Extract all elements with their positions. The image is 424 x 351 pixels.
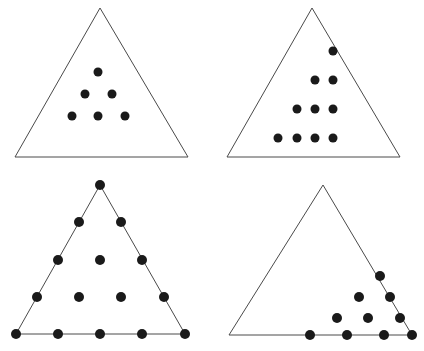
lattice-dot bbox=[53, 255, 63, 265]
panel-top-left bbox=[0, 0, 212, 175]
triangle-outline bbox=[229, 185, 412, 335]
dot-group bbox=[305, 271, 417, 340]
lattice-dot bbox=[332, 313, 342, 323]
lattice-dot bbox=[329, 76, 338, 85]
dot-group bbox=[11, 180, 190, 339]
lattice-dot bbox=[311, 105, 320, 114]
panel-bottom-left bbox=[0, 176, 212, 351]
lattice-dot bbox=[342, 330, 352, 340]
panel-bottom-left-canvas bbox=[0, 176, 212, 351]
lattice-dot bbox=[311, 76, 320, 85]
lattice-dot bbox=[159, 292, 169, 302]
lattice-dot bbox=[354, 292, 364, 302]
panel-top-right-canvas bbox=[212, 0, 424, 175]
lattice-dot bbox=[116, 217, 126, 227]
lattice-dot bbox=[293, 134, 302, 143]
triangle-outline bbox=[15, 8, 188, 157]
lattice-dot bbox=[363, 313, 373, 323]
lattice-dot bbox=[68, 112, 77, 121]
lattice-dot bbox=[137, 255, 147, 265]
lattice-dot bbox=[274, 134, 283, 143]
lattice-dot bbox=[74, 217, 84, 227]
lattice-dot bbox=[81, 90, 90, 99]
lattice-dot bbox=[116, 292, 126, 302]
lattice-dot bbox=[95, 329, 105, 339]
lattice-dot bbox=[53, 329, 63, 339]
lattice-dot bbox=[293, 105, 302, 114]
lattice-dot bbox=[305, 330, 315, 340]
panel-top-left-canvas bbox=[0, 0, 212, 175]
lattice-dot bbox=[32, 292, 42, 302]
lattice-dot bbox=[329, 105, 338, 114]
lattice-dot bbox=[329, 134, 338, 143]
panel-top-right bbox=[212, 0, 424, 175]
lattice-dot bbox=[11, 329, 21, 339]
lattice-dot bbox=[375, 271, 385, 281]
lattice-dot bbox=[137, 329, 147, 339]
lattice-dot bbox=[95, 255, 105, 265]
lattice-dot bbox=[385, 292, 395, 302]
lattice-dot bbox=[395, 313, 405, 323]
lattice-dot bbox=[311, 134, 320, 143]
dot-group bbox=[68, 68, 130, 121]
lattice-dot bbox=[108, 90, 117, 99]
panel-bottom-right-canvas bbox=[212, 176, 424, 351]
lattice-dot bbox=[74, 292, 84, 302]
lattice-dot bbox=[94, 112, 103, 121]
lattice-dot bbox=[94, 68, 103, 77]
lattice-dot bbox=[95, 180, 105, 190]
panel-bottom-right bbox=[212, 176, 424, 351]
lattice-dot bbox=[180, 329, 190, 339]
lattice-dot bbox=[407, 330, 417, 340]
figure-root bbox=[0, 0, 424, 351]
lattice-dot bbox=[379, 330, 389, 340]
lattice-dot bbox=[121, 112, 130, 121]
lattice-dot bbox=[329, 47, 338, 56]
dot-group bbox=[274, 47, 338, 143]
